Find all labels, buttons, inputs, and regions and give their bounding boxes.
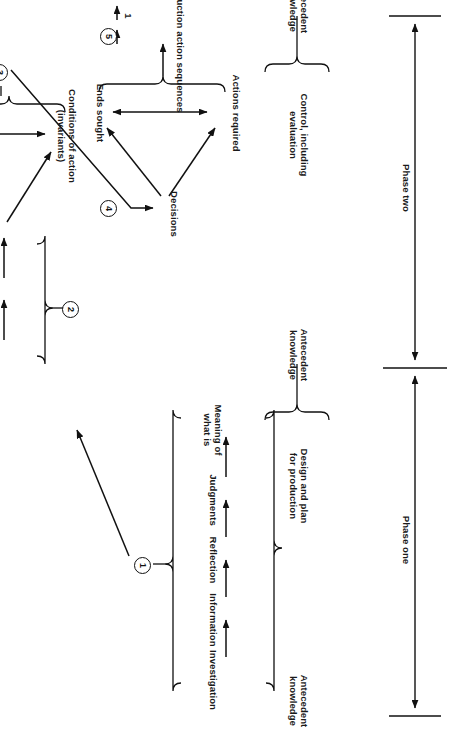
stage-marker-1: 1 [134,557,151,574]
stage-one-item-meaning-of-what-is: Meaning of what is [202,384,223,476]
brace-stage-one-bottom [165,410,181,691]
output-step-1: 1 [123,10,134,22]
rotated-figure-body: Phase two Phase one Control, including e… [0,0,469,736]
stage-five-input-actions-required: Actions required [231,58,242,168]
brace-antecedent-knowledge-stage-one [266,410,282,691]
brace-stage-five [99,76,225,92]
link-three-to-four [11,70,153,208]
stage-marker-2: 2 [62,301,79,318]
stage-four-decisions-label: Decisions [169,168,180,260]
design-plan-label: Design and plan for production [288,428,309,544]
control-evaluation-label: Control, including evaluation [288,80,309,190]
stage-marker-5: 5 [100,28,117,45]
stage-five-input-ends-sought: Ends sought [95,58,106,168]
phase-two-label: Phase two [401,142,412,234]
judgments-split-arrows [0,152,51,222]
antecedent-knowledge-control-label: Antecedent knowledge [288,0,309,62]
stage-five-label: Production action sequences [175,0,186,120]
brace-stage-two [37,236,53,364]
phase-ruler [383,16,447,716]
stage-three-output-conditions-of-action: Conditions of action (invariants) [56,78,77,194]
link-one-to-two [77,430,129,556]
phase-one-label: Phase one [401,494,412,586]
decisions-split-arrows [107,128,215,196]
antecedent-knowledge-phase-one-label: Antecedent knowledge [288,646,309,736]
figure-canvas: Phase two Phase one Control, including e… [0,0,469,736]
stage-marker-4: 4 [100,200,117,217]
antecedent-knowledge-design-label: Antecedent knowledge [288,300,309,410]
